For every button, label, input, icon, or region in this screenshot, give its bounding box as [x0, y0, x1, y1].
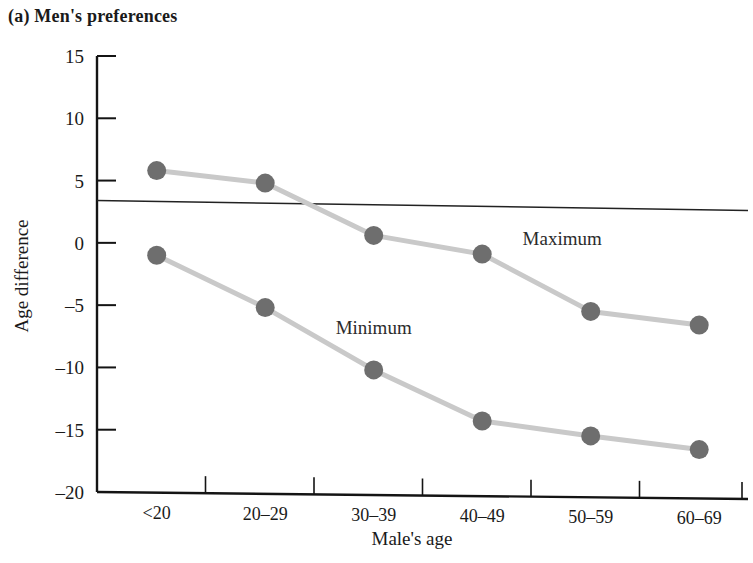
x-axis-tick-label: 60–69 — [677, 508, 722, 528]
y-axis-tick-label: –15 — [55, 420, 85, 441]
x-axis-tick-label: 30–39 — [351, 505, 396, 525]
series-annotation-minimum: Minimum — [336, 317, 412, 338]
y-axis-tick-label: –5 — [64, 295, 84, 316]
data-point-marker — [690, 316, 709, 335]
x-axis-tick-label: 40–49 — [460, 506, 505, 526]
series-annotations: MaximumMinimum — [336, 228, 602, 337]
y-axis-tick-label: 0 — [75, 233, 85, 254]
reference-line — [97, 201, 748, 211]
data-point-marker — [147, 161, 166, 180]
data-point-marker — [581, 426, 600, 445]
y-axis-tick-label: –10 — [55, 357, 85, 378]
line-chart: 151050–5–10–15–20 <2020–2930–3940–4950–5… — [0, 0, 753, 563]
figure-panel: (a) Men's preferences 151050–5–10–15–20 … — [0, 0, 753, 563]
x-axis-tick-labels: <2020–2930–3940–4950–5960–69 — [143, 503, 722, 529]
chart-axes — [97, 56, 748, 499]
y-axis-tick-label: 10 — [65, 108, 84, 129]
y-axis-tick-label: –20 — [55, 482, 85, 503]
data-point-marker — [256, 174, 275, 193]
y-axis-tick-label: 5 — [75, 171, 85, 192]
series-line-maximum — [157, 171, 700, 326]
data-point-marker — [473, 245, 492, 264]
y-axis-title: Age difference — [11, 219, 32, 332]
series-annotation-maximum: Maximum — [523, 228, 602, 249]
series-line-minimum — [157, 255, 700, 449]
x-axis-tick-label: <20 — [143, 503, 171, 523]
data-point-marker — [256, 298, 275, 317]
reference-line-segment — [97, 201, 748, 211]
data-point-marker — [690, 440, 709, 459]
x-axis-tick-label: 50–59 — [568, 507, 613, 527]
x-axis-title: Male's age — [372, 528, 453, 549]
x-axis-tick-label: 20–29 — [243, 504, 288, 524]
data-point-marker — [473, 412, 492, 431]
y-axis-tick-labels: 151050–5–10–15–20 — [55, 46, 85, 503]
data-point-marker — [364, 226, 383, 245]
data-point-marker — [581, 302, 600, 321]
y-axis-tick-label: 15 — [65, 46, 84, 67]
y-axis-ticks — [97, 56, 116, 492]
series-lines — [157, 171, 700, 450]
data-point-marker — [147, 246, 166, 265]
data-point-marker — [364, 360, 383, 379]
